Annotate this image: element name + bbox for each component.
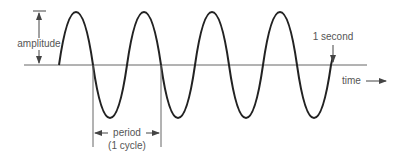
period-marker: period (1 cycle) — [93, 65, 161, 151]
amplitude-label: amplitude — [17, 38, 61, 49]
sine-wave-diagram: amplitude 1 second time period (1 cycle) — [0, 0, 403, 157]
amplitude-marker: amplitude — [17, 11, 61, 63]
time-label-group: time — [342, 75, 386, 86]
period-label: period — [113, 127, 141, 138]
one-second-marker: 1 second — [313, 31, 354, 62]
one-second-label: 1 second — [313, 31, 354, 42]
one-cycle-label: (1 cycle) — [108, 140, 146, 151]
time-label: time — [342, 75, 361, 86]
